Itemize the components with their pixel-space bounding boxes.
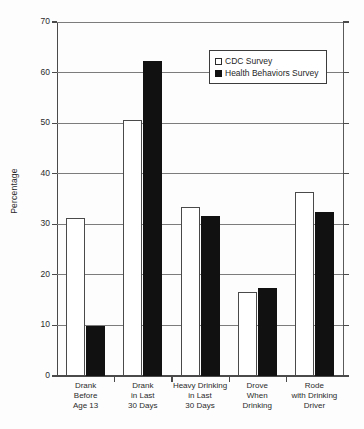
bar-health-behaviors-survey xyxy=(258,288,277,377)
y-tick-mark-right xyxy=(343,123,349,124)
x-axis-category-label: Rodewith DrinkingDriver xyxy=(269,381,359,412)
bar-chart: Percentage 010203040506070 DrankBeforeAg… xyxy=(0,0,364,429)
y-tick-label: 20 xyxy=(10,270,50,279)
bar-cdc-survey xyxy=(238,292,257,376)
y-tick-mark-right xyxy=(343,21,349,22)
y-tick-mark-right xyxy=(343,173,349,174)
bar-cdc-survey xyxy=(295,192,314,376)
bar-health-behaviors-survey xyxy=(143,61,162,376)
y-tick-label: 60 xyxy=(10,68,50,77)
legend-item-cdc-survey: CDC Survey xyxy=(215,55,319,67)
bar-health-behaviors-survey xyxy=(315,212,334,376)
bar-cdc-survey xyxy=(66,218,85,376)
legend-label: Health Behaviors Survey xyxy=(225,69,319,78)
legend: CDC Survey Health Behaviors Survey xyxy=(209,50,327,84)
y-tick-mark-right xyxy=(343,274,349,275)
y-tick-mark-right xyxy=(343,375,349,376)
category-label-line: with Drinking xyxy=(269,391,359,401)
bar-health-behaviors-survey xyxy=(201,216,220,376)
plot-right-border xyxy=(343,22,344,376)
category-label-line: Driver xyxy=(269,401,359,411)
y-tick-label: 70 xyxy=(10,17,50,26)
y-tick-label: 10 xyxy=(10,320,50,329)
legend-swatch-filled-square-icon xyxy=(215,70,222,77)
y-tick-label: 50 xyxy=(10,118,50,127)
bar-health-behaviors-survey xyxy=(86,326,105,376)
y-tick-mark-right xyxy=(343,72,349,73)
category-label-line: Rode xyxy=(269,381,359,391)
y-tick-label: 30 xyxy=(10,219,50,228)
y-tick-mark-right xyxy=(343,325,349,326)
y-tick-mark-right xyxy=(343,224,349,225)
y-tick-label: 0 xyxy=(10,371,50,380)
legend-label: CDC Survey xyxy=(225,57,272,66)
bar-cdc-survey xyxy=(123,120,142,376)
legend-swatch-open-square-icon xyxy=(215,58,222,65)
legend-item-health-behaviors-survey: Health Behaviors Survey xyxy=(215,67,319,79)
bar-cdc-survey xyxy=(181,207,200,376)
y-tick-label: 40 xyxy=(10,169,50,178)
